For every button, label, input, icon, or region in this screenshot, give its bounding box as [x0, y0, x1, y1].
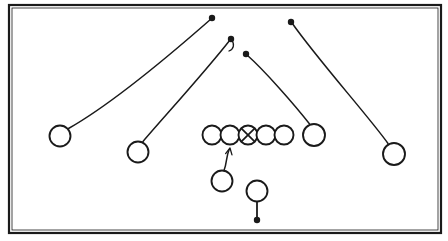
diagram-background — [0, 0, 448, 241]
player-running-back[interactable] — [212, 171, 233, 192]
player-ol-left-guard[interactable] — [221, 126, 240, 145]
player-ol-tight-end[interactable] — [303, 124, 325, 146]
route-endpoint-dot — [209, 15, 215, 21]
route-endpoint-dot — [288, 19, 294, 25]
player-quarterback[interactable] — [247, 181, 268, 202]
player-wr-right-outside[interactable] — [383, 143, 405, 165]
play-diagram — [0, 0, 448, 241]
play-diagram-canvas — [0, 0, 448, 241]
player-ol-right-tackle[interactable] — [275, 126, 294, 145]
player-ol-right-guard[interactable] — [257, 126, 276, 145]
player-wr-left-slot[interactable] — [128, 142, 149, 163]
route-endpoint-dot — [228, 36, 234, 42]
route-endpoint-dot — [254, 217, 260, 223]
player-ol-left-tackle[interactable] — [203, 126, 222, 145]
route-endpoint-dot — [243, 51, 249, 57]
player-wr-left-outside[interactable] — [50, 126, 71, 147]
